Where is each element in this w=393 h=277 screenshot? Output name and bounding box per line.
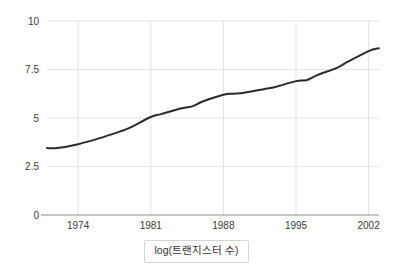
y-axis-tick-label: 7.5	[25, 64, 39, 75]
y-axis-tick-label: 10	[28, 16, 40, 27]
y-axis-tick-labels: 02.557.510	[25, 16, 39, 221]
data-series-line	[47, 48, 379, 148]
y-axis-tick-label: 5	[33, 113, 39, 124]
x-axis-tick-label: 1988	[212, 220, 235, 231]
caption-container: log(트랜지스터 수)	[0, 240, 393, 263]
chart-figure: 02.557.510 19741981198819952002 log(트랜지스…	[0, 0, 393, 277]
x-axis-tick-label: 1974	[67, 220, 90, 231]
x-axis-tick-label: 2002	[358, 220, 381, 231]
x-axis-tick-label: 1995	[285, 220, 308, 231]
chart-caption: log(트랜지스터 수)	[144, 240, 250, 263]
y-axis-tick-label: 0	[33, 210, 39, 221]
y-axis-tick-label: 2.5	[25, 161, 39, 172]
gridlines-group	[47, 21, 379, 215]
line-chart-plot: 02.557.510 19741981198819952002	[0, 0, 393, 235]
x-axis-tick-label: 1981	[140, 220, 163, 231]
x-axis-tick-labels: 19741981198819952002	[67, 220, 380, 231]
